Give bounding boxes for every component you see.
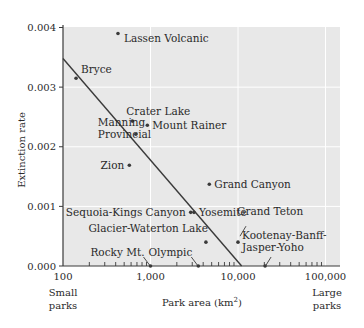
x-tick-label: 100,000 (305, 271, 346, 282)
y-tick-label: 0.001 (27, 201, 56, 212)
point-label: Sequoia-Kings Canyon (66, 206, 186, 218)
point-label: ManningProvincial (98, 116, 152, 140)
point-label: Grand Canyon (214, 178, 291, 190)
data-point (204, 240, 208, 244)
point-label: Rocky Mt. (90, 246, 144, 258)
x-tick-label: 100 (53, 271, 72, 282)
data-point (192, 211, 196, 215)
data-point (197, 264, 201, 268)
data-point (263, 264, 267, 268)
x-axis-label: Park area (km2) (162, 296, 242, 308)
y-tick-label: 0.004 (27, 22, 56, 33)
point-label: Lassen Volcanic (124, 32, 209, 44)
data-point (116, 32, 120, 36)
large-parks-annotation-line2: parks (313, 300, 341, 311)
data-point (208, 183, 212, 187)
y-tick-label: 0.003 (27, 82, 56, 93)
x-tick-label: 1,000 (136, 271, 165, 282)
data-point (146, 123, 150, 127)
point-label: Grand Teton (237, 205, 303, 217)
y-axis-label: Extinction rate (16, 112, 27, 188)
y-tick-label: 0.002 (27, 141, 56, 152)
small-parks-annotation-line1: Small (49, 287, 78, 298)
point-label: Bryce (81, 63, 112, 75)
data-point (149, 264, 153, 268)
data-point (236, 240, 240, 244)
point-label: Zion (101, 159, 125, 171)
y-tick-label: 0.000 (27, 261, 56, 272)
point-label: Olympic (148, 246, 192, 258)
x-tick-label: 10,000 (221, 271, 256, 282)
large-parks-annotation-line1: Large (312, 287, 342, 298)
scatter-chart: 0.0000.0010.0020.0030.0041001,00010,0001… (0, 0, 364, 328)
data-point (128, 163, 132, 167)
data-point (74, 76, 78, 80)
small-parks-annotation-line2: parks (49, 300, 77, 311)
data-point (189, 211, 193, 215)
point-label: Glacier-Waterton Lake (88, 222, 208, 234)
point-label: Mount Rainer (152, 119, 227, 131)
